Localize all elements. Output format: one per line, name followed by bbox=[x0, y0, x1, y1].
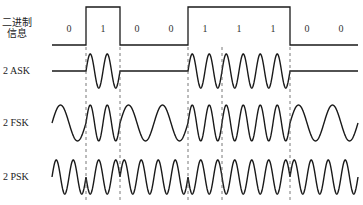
binary-signal bbox=[52, 7, 358, 45]
waveform-diagram bbox=[0, 0, 363, 205]
fsk-waveform bbox=[52, 105, 358, 141]
psk-waveform bbox=[52, 160, 358, 194]
ask-waveform bbox=[52, 54, 358, 88]
